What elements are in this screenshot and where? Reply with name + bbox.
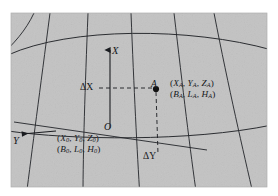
- delta-y-label: ΔY: [143, 152, 156, 162]
- diagram-canvas: [0, 0, 278, 196]
- point-a-cartesian-coords: (XA, YA, ZA): [170, 79, 214, 89]
- y-axis-label: Y: [13, 135, 19, 146]
- x-axis-label: X: [112, 45, 119, 56]
- origin-label: O: [104, 122, 111, 133]
- origin-geodetic-coords: (B0, L0, H0): [57, 145, 100, 155]
- plot-background-grain: [11, 13, 267, 187]
- point-a-label: A: [151, 80, 157, 90]
- geodetic-grid-figure: X Y O A ΔX ΔY (XA, YA, ZA) (BA, LA, HA) …: [0, 0, 278, 196]
- delta-x-label: ΔX: [80, 83, 93, 93]
- origin-cartesian-coords: (X0, Y0, Z0): [57, 134, 99, 144]
- point-a-geodetic-coords: (BA, LA, HA): [170, 90, 215, 100]
